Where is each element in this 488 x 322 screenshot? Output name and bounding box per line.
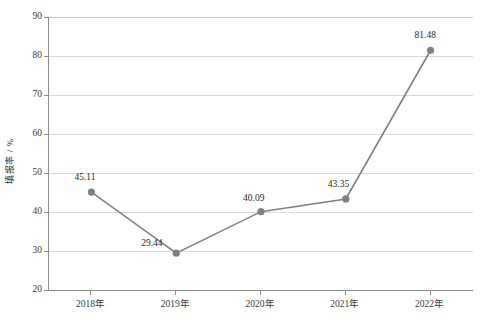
line-chart: 填报率 / % 2030405060708090 2018年2019年2020年… <box>0 0 488 322</box>
x-tick-mark <box>260 291 261 295</box>
series-polyline <box>91 50 430 253</box>
y-tick-label: 20 <box>12 285 42 295</box>
x-tick-label: 2018年 <box>55 300 125 310</box>
x-tick-label: 2022年 <box>395 300 465 310</box>
data-point-marker <box>88 188 95 195</box>
data-point-label: 43.35 <box>328 180 349 190</box>
series-line <box>49 17 473 290</box>
x-tick-mark <box>175 291 176 295</box>
data-point-label: 45.11 <box>74 173 95 183</box>
y-tick-label: 90 <box>12 12 42 22</box>
x-tick-mark <box>90 291 91 295</box>
data-point-marker <box>342 195 349 202</box>
data-point-marker <box>173 250 180 257</box>
data-point-marker <box>427 47 434 54</box>
y-tick-label: 30 <box>12 246 42 256</box>
y-tick-label: 50 <box>12 168 42 178</box>
data-point-label: 81.48 <box>415 31 436 41</box>
y-tick-label: 70 <box>12 90 42 100</box>
x-tick-mark <box>345 291 346 295</box>
data-point-label: 29.44 <box>141 239 162 249</box>
y-axis-title: 填报率 / % <box>0 0 18 322</box>
x-tick-label: 2020年 <box>225 300 295 310</box>
x-tick-label: 2021年 <box>310 300 380 310</box>
x-tick-mark <box>430 291 431 295</box>
data-point-marker <box>257 208 264 215</box>
x-tick-label: 2019年 <box>140 300 210 310</box>
data-point-label: 40.09 <box>243 194 264 204</box>
y-tick-label: 60 <box>12 129 42 139</box>
y-tick-label: 80 <box>12 51 42 61</box>
y-tick-label: 40 <box>12 207 42 217</box>
plot-area <box>48 17 473 291</box>
